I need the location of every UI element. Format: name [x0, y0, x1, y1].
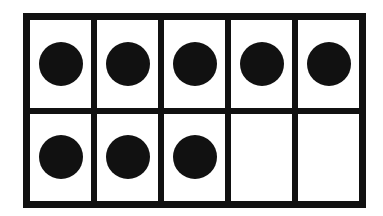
ten-frame-cell	[97, 20, 158, 108]
ten-frame	[23, 13, 366, 208]
ten-frame-cell	[231, 114, 292, 202]
counter-dot	[106, 42, 150, 86]
ten-frame-cell	[164, 20, 225, 108]
ten-frame-cell	[164, 114, 225, 202]
counter-dot	[240, 42, 284, 86]
counter-dot	[173, 135, 217, 179]
counter-dot	[173, 42, 217, 86]
ten-frame-cell	[30, 114, 91, 202]
counter-dot	[106, 135, 150, 179]
counter-dot	[307, 42, 351, 86]
ten-frame-cell	[30, 20, 91, 108]
ten-frame-cell	[298, 114, 359, 202]
counter-dot	[39, 135, 83, 179]
counter-dot	[39, 42, 83, 86]
ten-frame-cell	[97, 114, 158, 202]
ten-frame-cell	[231, 20, 292, 108]
ten-frame-cell	[298, 20, 359, 108]
